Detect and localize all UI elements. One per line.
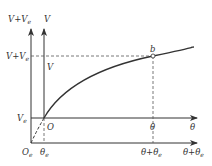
curve-dashed-segment	[31, 118, 44, 143]
v-tick-label: V	[47, 62, 54, 72]
inner-vertical-axis-label: V	[44, 14, 51, 24]
v-plus-ve-tick-label: V+Ve	[6, 51, 29, 62]
theta-plus-theta-e-tick-label: θ+θe	[141, 147, 162, 158]
outer-vertical-axis-label: V+Ve	[8, 14, 31, 25]
theta-tick-label: θ	[150, 122, 155, 132]
curve-solid	[44, 47, 194, 118]
point-b-marker	[151, 54, 155, 58]
origin-o-label: O	[47, 122, 54, 132]
ve-tick-label: Ve	[17, 113, 27, 124]
theta-e-tick-label: θe	[40, 147, 49, 158]
diagram-canvas: V+Ve V V+Ve V b Ve O θ θ Oe θe θ+θe θ+θe	[0, 0, 212, 166]
origin-oe-label: Oe	[22, 147, 33, 158]
point-b-label: b	[150, 44, 155, 54]
theta-axis-label: θ	[190, 122, 195, 132]
theta-plus-theta-e-axis-label: θ+θe	[183, 147, 204, 158]
